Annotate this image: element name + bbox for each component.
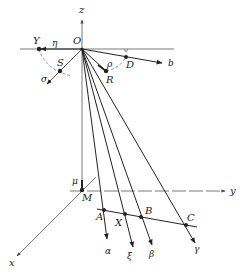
label-alpha: α [105,246,111,256]
x-axis-label: x [9,257,15,268]
label-sigma: σ [41,74,48,84]
point-Y [37,47,41,51]
b-vector [82,49,162,63]
point-S [58,69,62,73]
y-axis-label: y [229,185,236,196]
label-D: D [125,59,134,70]
label-C: C [187,212,195,223]
point-C [184,223,188,227]
label-R: R [105,74,114,85]
label-A: A [95,211,103,222]
label-rho: ρ [106,59,113,69]
sigma-vector [47,49,82,84]
label-S: S [57,57,64,68]
label-gamma: γ [194,244,200,254]
point-B [139,215,143,219]
point-X [123,212,127,216]
point-R [104,69,108,73]
tick-mark [124,49,128,52]
label-Y: Y [33,35,41,46]
diagram-canvas: z y x O Y S R [0,0,246,276]
label-b: b [168,58,174,68]
label-beta: β [148,249,154,259]
label-xi: ξ [127,251,133,261]
point-O [80,47,83,50]
z-axis-label: z [78,4,85,15]
label-O: O [73,35,81,46]
x-axis [17,177,96,256]
label-eta: η [52,38,58,48]
label-B: B [144,205,152,216]
geometry-diagram: z y x O Y S R [0,0,246,276]
label-mu: μ [72,176,78,186]
dashed-arc-left [39,49,72,76]
label-M: M [81,192,93,203]
label-X: X [114,217,123,228]
